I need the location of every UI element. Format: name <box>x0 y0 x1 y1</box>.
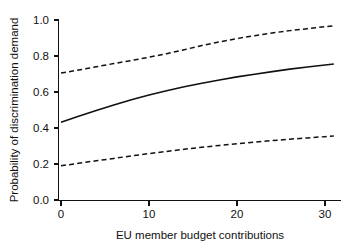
y-tick-marks <box>54 20 59 200</box>
x-tick-labels: 0102030 <box>58 208 332 220</box>
y-axis: 0.00.20.40.60.81.0 <box>33 14 59 206</box>
x-tick-label: 30 <box>319 208 332 220</box>
y-tick-label: 1.0 <box>33 14 49 26</box>
data-series-group <box>61 26 334 166</box>
series-line <box>61 136 334 166</box>
series-line <box>61 26 334 73</box>
y-tick-label: 0.2 <box>33 158 49 170</box>
x-tick-label: 0 <box>58 208 64 220</box>
y-tick-label: 0.0 <box>33 194 49 206</box>
x-tick-marks <box>61 201 325 206</box>
line-chart: 0.00.20.40.60.81.0 0102030 EU member bud… <box>0 0 359 248</box>
x-axis-title: EU member budget contributions <box>116 229 284 241</box>
y-tick-labels: 0.00.20.40.60.81.0 <box>33 14 50 206</box>
y-tick-label: 0.6 <box>33 86 49 98</box>
series-line <box>61 64 334 122</box>
x-tick-label: 10 <box>143 208 156 220</box>
figure-container: 0.00.20.40.60.81.0 0102030 EU member bud… <box>0 0 359 248</box>
x-axis: 0102030 <box>58 201 341 221</box>
y-tick-label: 0.4 <box>33 122 50 134</box>
y-axis-title: Probability of discrimination demand <box>8 18 20 203</box>
x-tick-label: 20 <box>231 208 244 220</box>
y-tick-label: 0.8 <box>33 50 49 62</box>
